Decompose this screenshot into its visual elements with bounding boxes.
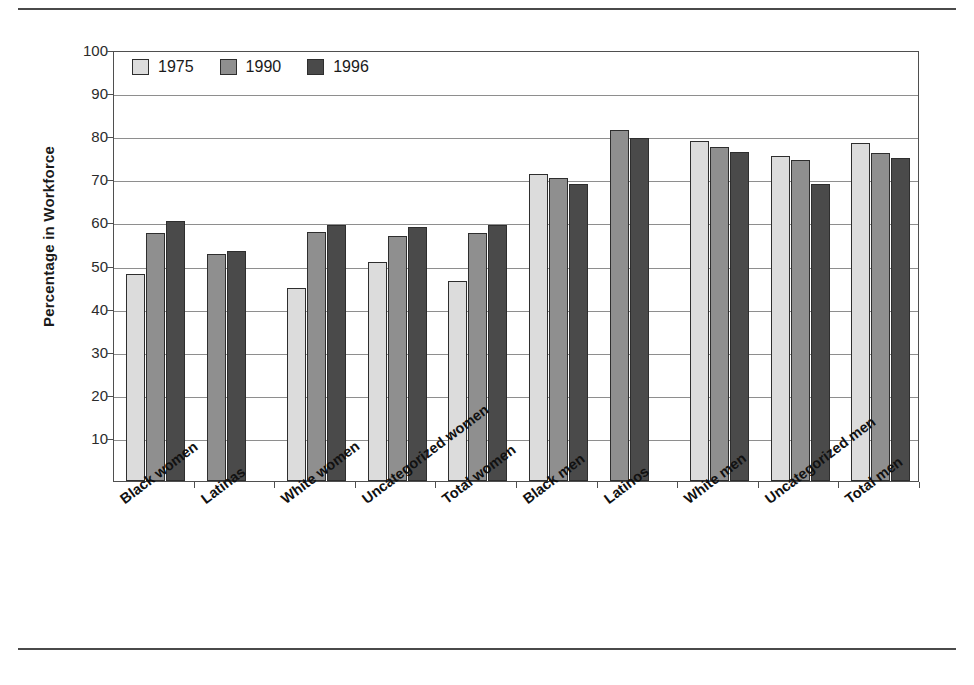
- legend-swatch-icon: [132, 59, 149, 75]
- y-axis-tick-label: 100: [62, 42, 108, 59]
- bar-1975[interactable]: [126, 274, 145, 481]
- y-axis-tick-label: 50: [62, 258, 108, 275]
- y-axis-title: Percentage in Workforce: [40, 97, 57, 377]
- x-axis-tick-mark: [274, 482, 275, 488]
- y-axis-tick-label: 40: [62, 301, 108, 318]
- legend-item-1975[interactable]: 1975: [132, 58, 194, 76]
- x-axis-tick-mark: [194, 482, 195, 488]
- legend-item-1990[interactable]: 1990: [220, 58, 282, 76]
- bar-1990[interactable]: [549, 178, 568, 481]
- bar-1996[interactable]: [227, 251, 246, 481]
- bar-group: [678, 52, 759, 481]
- x-axis-tick-mark: [758, 482, 759, 488]
- legend-label: 1990: [246, 58, 282, 76]
- x-axis-tick-mark: [355, 482, 356, 488]
- y-axis-tick-label: 30: [62, 344, 108, 361]
- bar-group: [195, 52, 276, 481]
- legend-swatch-icon: [307, 59, 324, 75]
- y-axis-tick-mark: [106, 223, 113, 224]
- y-axis-tick-mark: [106, 180, 113, 181]
- bar-1996[interactable]: [327, 225, 346, 481]
- legend-swatch-icon: [220, 59, 237, 75]
- bar-group: [598, 52, 679, 481]
- y-axis-tick-mark: [106, 396, 113, 397]
- bar-1975[interactable]: [529, 174, 548, 481]
- bar-1975[interactable]: [448, 281, 467, 481]
- bar-1996[interactable]: [891, 158, 910, 481]
- y-axis-tick-mark: [106, 439, 113, 440]
- y-axis-tick-label: 20: [62, 387, 108, 404]
- y-axis-tick-label: 10: [62, 430, 108, 447]
- bar-1990[interactable]: [307, 232, 326, 481]
- bar-1975[interactable]: [771, 156, 790, 481]
- bar-1990[interactable]: [871, 153, 890, 481]
- bar-1990[interactable]: [388, 236, 407, 481]
- figure-bottom-rule: [18, 648, 956, 650]
- bar-1990[interactable]: [791, 160, 810, 481]
- x-axis-tick-mark: [677, 482, 678, 488]
- y-axis-tick-label: 60: [62, 214, 108, 231]
- bar-1996[interactable]: [166, 221, 185, 481]
- bar-1975[interactable]: [690, 141, 709, 481]
- chart-legend: 197519901996: [132, 58, 369, 76]
- figure-top-rule: [18, 8, 956, 10]
- bar-1996[interactable]: [569, 184, 588, 481]
- bar-group: [517, 52, 598, 481]
- bar-1990[interactable]: [710, 147, 729, 481]
- plot-area: 197519901996: [113, 51, 919, 482]
- bar-1990[interactable]: [146, 233, 165, 481]
- legend-label: 1996: [333, 58, 369, 76]
- bar-1996[interactable]: [730, 152, 749, 481]
- bar-1990[interactable]: [468, 233, 487, 481]
- bar-1996[interactable]: [630, 138, 649, 482]
- bar-group: [275, 52, 356, 481]
- x-axis-tick-mark: [838, 482, 839, 488]
- bar-1975[interactable]: [287, 288, 306, 481]
- x-axis-tick-mark: [435, 482, 436, 488]
- y-axis-tick-label: 80: [62, 128, 108, 145]
- x-axis-tick-mark: [919, 482, 920, 488]
- y-axis-tick-mark: [106, 137, 113, 138]
- y-axis-tick-label: 90: [62, 85, 108, 102]
- bar-1996[interactable]: [811, 184, 830, 481]
- y-axis-tick-mark: [106, 353, 113, 354]
- y-axis-tick-mark: [106, 51, 113, 52]
- bar-group: [839, 52, 919, 481]
- bar-1996[interactable]: [488, 225, 507, 481]
- legend-item-1996[interactable]: 1996: [307, 58, 369, 76]
- bar-1975[interactable]: [368, 262, 387, 481]
- y-axis-tick-mark: [106, 94, 113, 95]
- bar-1996[interactable]: [408, 227, 427, 481]
- figure-container: Percentage in Workforce 1009080706050403…: [0, 0, 974, 685]
- bar-group: [114, 52, 195, 481]
- bar-1990[interactable]: [207, 254, 226, 481]
- legend-label: 1975: [158, 58, 194, 76]
- x-axis-tick-mark: [516, 482, 517, 488]
- y-axis-tick-label: 70: [62, 171, 108, 188]
- y-axis-tick-mark: [106, 310, 113, 311]
- bar-group: [759, 52, 840, 481]
- bar-1990[interactable]: [610, 130, 629, 481]
- x-axis-tick-mark: [597, 482, 598, 488]
- bar-group: [356, 52, 437, 481]
- y-axis-tick-mark: [106, 267, 113, 268]
